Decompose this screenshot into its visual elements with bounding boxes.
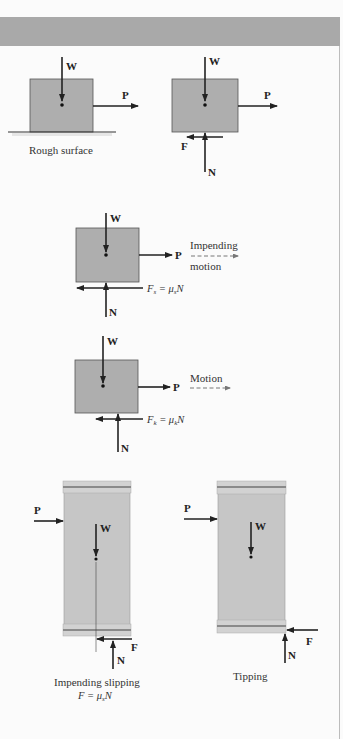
- push-label: P: [184, 502, 191, 514]
- normal-label: N: [288, 649, 296, 661]
- center-of-mass-dot: [60, 103, 64, 107]
- caption: Impending slipping: [54, 676, 140, 688]
- weight-label: W: [255, 520, 266, 532]
- caption: Rough surface: [29, 144, 93, 156]
- push-label: P: [173, 381, 180, 393]
- friction-figure: W P Rough surface W P F N W P Impending …: [0, 0, 343, 739]
- motion-label-line1: Impending: [190, 239, 238, 251]
- weight-label: W: [66, 60, 77, 72]
- weight-label: W: [100, 522, 111, 534]
- push-label: P: [122, 89, 129, 101]
- center-of-mass-dot: [94, 557, 97, 560]
- friction-label: F: [181, 140, 188, 152]
- weight-label: W: [209, 55, 220, 67]
- weight-label: W: [107, 335, 118, 347]
- panel-rough-surface: W P Rough surface: [8, 57, 138, 156]
- push-label: P: [264, 89, 271, 101]
- normal-label: N: [121, 442, 129, 454]
- push-label: P: [34, 504, 41, 516]
- caption: Tipping: [233, 670, 268, 682]
- top-cap-stripe: [63, 486, 131, 488]
- bottom-cap-stripe: [217, 625, 286, 627]
- center-of-mass-dot: [203, 103, 207, 107]
- panel-free-body: W P F N: [172, 55, 277, 178]
- friction-equation: Fk = μkN: [146, 414, 185, 427]
- push-label: P: [175, 249, 182, 261]
- normal-label: N: [109, 306, 117, 318]
- ground-shadow: [12, 133, 112, 136]
- friction-label: F: [306, 635, 313, 647]
- center-of-mass-dot: [101, 384, 105, 388]
- center-of-mass-dot: [249, 555, 252, 558]
- motion-label-line2: motion: [190, 260, 222, 272]
- bottom-cap-stripe: [63, 629, 131, 631]
- normal-label: N: [117, 654, 125, 666]
- caption-equation: F = μsN: [77, 690, 113, 703]
- panel-motion: W P Motion Fk = μkN N: [75, 335, 230, 454]
- center-of-mass-dot: [104, 253, 108, 257]
- panel-impending-motion: W P Impending motion Fs = μsN N: [76, 212, 238, 318]
- top-cap-stripe: [217, 486, 286, 488]
- friction-equation: Fs = μsN: [146, 283, 185, 296]
- panel-tipping: P W F N Tipping: [184, 481, 318, 682]
- panel-impending-slipping: P W F N Impending slipping F = μsN: [34, 481, 140, 703]
- normal-label: N: [208, 166, 216, 178]
- friction-label: F: [131, 641, 138, 653]
- motion-label: Motion: [190, 372, 223, 384]
- weight-label: W: [110, 212, 121, 224]
- block: [75, 360, 138, 413]
